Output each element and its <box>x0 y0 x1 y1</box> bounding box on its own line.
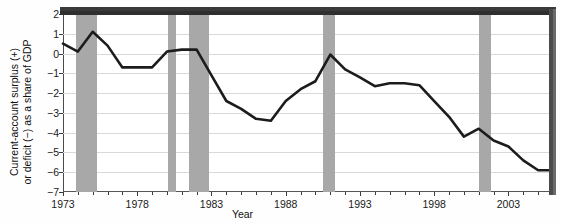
x-tick-minor <box>93 192 94 195</box>
x-tick-major <box>360 192 361 196</box>
x-tick-minor <box>494 192 495 195</box>
figure-top-border-shadow <box>60 11 556 15</box>
x-tick-minor <box>167 192 168 195</box>
x-tick-minor <box>271 192 272 195</box>
y-axis-title-line-1: Current-account surplus (+) <box>8 48 20 176</box>
y-axis-title: Current-account surplus (+) or deficit (… <box>0 0 43 224</box>
x-tick-major <box>508 192 509 196</box>
x-tick-minor <box>301 192 302 195</box>
y-tick-label: −1 <box>47 67 59 79</box>
x-tick-minor <box>390 192 391 195</box>
x-axis-title: Year <box>0 208 561 220</box>
x-tick-minor <box>538 192 539 195</box>
series-polyline <box>63 32 553 170</box>
y-tick-label: −5 <box>47 146 59 158</box>
y-tick-label: −6 <box>47 166 59 178</box>
y-tick-label: −4 <box>47 127 59 139</box>
chart-figure: Current-account surplus (+) or deficit (… <box>0 0 561 224</box>
x-tick-major <box>63 192 64 196</box>
x-tick-minor <box>197 192 198 195</box>
figure-right-border-shadow <box>553 9 556 195</box>
x-tick-minor <box>479 192 480 195</box>
x-tick-minor <box>182 192 183 195</box>
y-tick-label: −7 <box>47 186 59 198</box>
x-tick-major <box>286 192 287 196</box>
x-tick-minor <box>122 192 123 195</box>
x-tick-minor <box>330 192 331 195</box>
x-tick-minor <box>345 192 346 195</box>
y-tick-label: −3 <box>47 107 59 119</box>
x-tick-minor <box>405 192 406 195</box>
plot-area: 210−1−2−3−4−5−6−7 1973197819831988199319… <box>63 14 553 192</box>
data-series-line <box>63 14 553 192</box>
x-tick-major <box>137 192 138 196</box>
y-tick-label: −2 <box>47 87 59 99</box>
x-tick-minor <box>449 192 450 195</box>
x-tick-minor <box>241 192 242 195</box>
y-axis-title-line-2: or deficit (−) as a share of GDP <box>21 39 33 184</box>
x-tick-minor <box>152 192 153 195</box>
x-tick-minor <box>419 192 420 195</box>
x-tick-minor <box>78 192 79 195</box>
x-tick-minor <box>464 192 465 195</box>
x-tick-minor <box>256 192 257 195</box>
x-tick-major <box>434 192 435 196</box>
x-tick-minor <box>226 192 227 195</box>
x-tick-minor <box>523 192 524 195</box>
x-tick-minor <box>108 192 109 195</box>
x-tick-major <box>211 192 212 196</box>
x-tick-minor <box>375 192 376 195</box>
x-tick-minor <box>315 192 316 195</box>
